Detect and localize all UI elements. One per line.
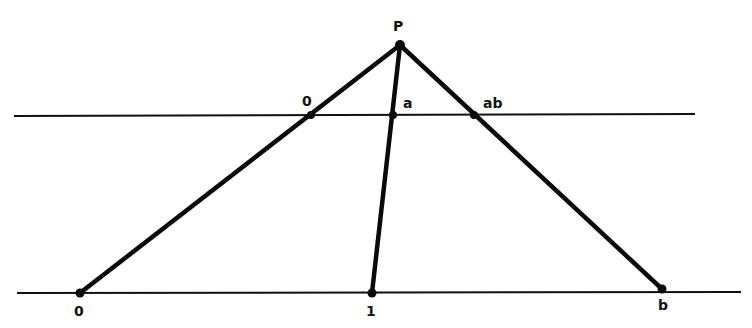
label-top-zero: 0 (302, 93, 312, 109)
label-ab: ab (483, 95, 502, 111)
label-b: b (658, 297, 668, 313)
ray-p-to-b (400, 45, 662, 289)
multiplication-projection-diagram: P 0 a ab 0 1 b (0, 0, 752, 328)
label-p: P (393, 18, 403, 34)
point-p (395, 40, 405, 50)
ray-p-to-zero (80, 45, 400, 293)
point-top-zero (307, 111, 315, 119)
label-a: a (403, 95, 412, 111)
label-one: 1 (366, 303, 376, 319)
bottom-parallel-line (17, 292, 741, 293)
point-one (368, 289, 377, 298)
label-bottom-zero: 0 (74, 303, 84, 319)
point-bottom-zero (76, 289, 85, 298)
point-b (658, 285, 667, 294)
ray-p-to-one (372, 45, 400, 293)
point-ab (470, 111, 478, 119)
point-a (389, 111, 397, 119)
top-parallel-line (14, 114, 695, 116)
